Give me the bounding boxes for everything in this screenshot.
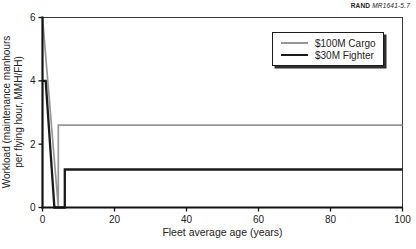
chart-figure: RAND MR1641-5.7 Workload (maintenance ma… xyxy=(0,0,416,249)
y-tick-label: 4 xyxy=(30,75,36,86)
x-tick-label: 80 xyxy=(325,214,337,225)
x-tick-label: 20 xyxy=(109,214,121,225)
cargo-legend-label: $100M Cargo xyxy=(315,38,376,49)
legend-item-cargo: $100M Cargo xyxy=(273,37,383,49)
fighter-legend-label: $30M Fighter xyxy=(315,50,374,61)
legend-item-fighter: $30M Fighter xyxy=(273,49,383,61)
y-tick-label: 2 xyxy=(30,139,36,150)
legend-box: $100M Cargo $30M Fighter xyxy=(272,32,384,66)
x-tick-label: 60 xyxy=(253,214,265,225)
fighter-line-swatch xyxy=(281,54,308,56)
x-tick-label: 40 xyxy=(181,214,193,225)
x-tick-label: 100 xyxy=(394,214,411,225)
cargo-line-swatch xyxy=(281,42,308,44)
x-axis-label: Fleet average age (years) xyxy=(42,226,403,238)
y-tick-label: 6 xyxy=(30,12,36,23)
series-line-1 xyxy=(43,81,403,208)
y-tick-label: 0 xyxy=(30,202,36,213)
x-tick-label: 0 xyxy=(40,214,46,225)
